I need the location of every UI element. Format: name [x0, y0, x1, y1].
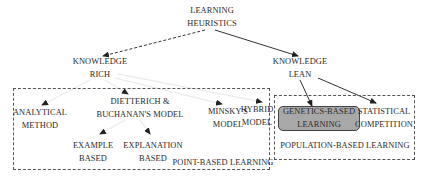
node-label: BASED	[73, 153, 113, 166]
group-label: POPULATION-BASED LEARNING	[280, 141, 409, 150]
group-label: POINT-BASED LEARNING	[172, 158, 273, 167]
population-based-learning-label: POPULATION-BASED LEARNING	[280, 140, 409, 153]
node-label: HYBRID	[241, 104, 274, 117]
node-label: ANALYTICAL	[13, 107, 67, 120]
node-label: MODEL	[241, 117, 274, 130]
node-label: EXAMPLE	[73, 140, 113, 153]
node-knowledge-rich: KNOWLEDGE RICH	[73, 56, 127, 81]
node-label: BUCHANAN'S MODEL	[96, 109, 183, 122]
node-label: HEURISTICS	[187, 18, 236, 31]
node-label: DIETTERICH &	[96, 96, 183, 109]
node-label: METHOD	[13, 120, 67, 133]
node-label: STATISTICAL	[355, 106, 413, 119]
edge-root-lean	[215, 30, 298, 56]
node-label: LEARNING	[187, 5, 236, 18]
node-label: LEARNING	[283, 119, 355, 132]
node-learning-heuristics: LEARNING HEURISTICS	[187, 5, 236, 30]
node-label: LEAN	[273, 69, 327, 82]
node-hybrid-model: HYBRID MODEL	[241, 104, 274, 129]
node-analytical-method: ANALYTICAL METHOD	[13, 107, 67, 132]
node-label: GENETICS-BASED	[283, 106, 355, 119]
node-genetics-based-learning: GENETICS-BASED LEARNING	[283, 106, 355, 131]
node-example-based: EXAMPLE BASED	[73, 140, 113, 165]
node-label: KNOWLEDGE	[73, 56, 127, 69]
node-dietterich-buchanan-model: DIETTERICH & BUCHANAN'S MODEL	[96, 96, 183, 121]
node-label: EXPLANATION	[123, 140, 182, 153]
node-knowledge-lean: KNOWLEDGE LEAN	[273, 56, 327, 81]
node-label: KNOWLEDGE	[273, 56, 327, 69]
node-label: COMPETITION	[355, 119, 413, 132]
node-label: RICH	[73, 69, 127, 82]
learning-heuristics-diagram: LEARNING HEURISTICS KNOWLEDGE RICH KNOWL…	[0, 0, 423, 177]
node-statistical-competition: STATISTICAL COMPETITION	[355, 106, 413, 131]
point-based-learning-label: POINT-BASED LEARNING	[172, 157, 273, 170]
edge-root-rich	[103, 30, 205, 56]
